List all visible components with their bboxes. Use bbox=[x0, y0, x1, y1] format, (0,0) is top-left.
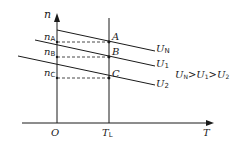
na-label: nA bbox=[44, 31, 55, 43]
point-b-label: B bbox=[111, 46, 119, 57]
nc-label: nC bbox=[44, 67, 55, 79]
load-torque-label: TL bbox=[102, 127, 113, 139]
point-b-marker bbox=[108, 56, 111, 59]
curve-u1-label: U1 bbox=[156, 58, 169, 70]
x-axis-arrow-icon bbox=[206, 120, 214, 126]
x-axis-label: T bbox=[203, 127, 211, 138]
point-a-label: A bbox=[111, 31, 119, 42]
curve-u2 bbox=[18, 56, 155, 85]
speed-torque-diagram: n nA nB nC A B C UN U1 U2 UN>U1>U2 O TL … bbox=[0, 0, 245, 146]
curve-u2-label: U2 bbox=[156, 78, 169, 90]
na-marker bbox=[56, 41, 58, 43]
origin-label: O bbox=[51, 127, 59, 138]
point-a-marker bbox=[108, 41, 111, 44]
point-c-marker bbox=[108, 77, 111, 80]
nc-marker bbox=[56, 77, 58, 79]
y-axis-arrow-icon bbox=[54, 13, 60, 22]
y-axis-label: n bbox=[44, 8, 51, 21]
nb-marker bbox=[56, 56, 58, 58]
curve-un-label: UN bbox=[156, 43, 170, 55]
point-c-label: C bbox=[112, 68, 120, 79]
nb-label: nB bbox=[44, 46, 55, 58]
voltage-relation: UN>U1>U2 bbox=[175, 69, 229, 80]
